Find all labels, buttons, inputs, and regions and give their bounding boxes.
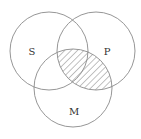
label-s: S [29, 46, 36, 57]
venn-diagram: S P M [0, 0, 141, 139]
label-p: P [104, 46, 111, 57]
label-m: M [69, 106, 79, 117]
